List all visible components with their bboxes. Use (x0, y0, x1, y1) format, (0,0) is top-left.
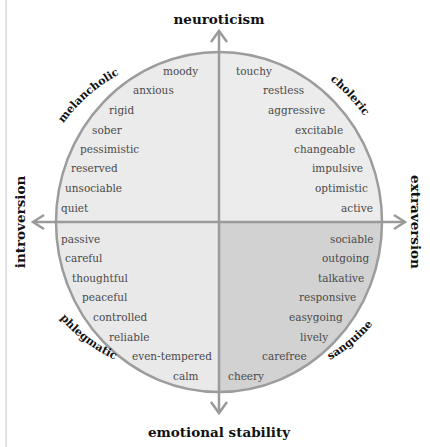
temperament-diagram: neuroticism emotional stability introver… (0, 0, 430, 447)
trait: moody (163, 65, 198, 77)
trait: optimistic (315, 182, 368, 194)
trait: cheery (228, 370, 264, 382)
trait: restless (263, 84, 304, 96)
trait: touchy (236, 65, 272, 77)
trait: reserved (71, 162, 118, 174)
trait: unsociable (65, 182, 122, 194)
axis-label-top: neuroticism (174, 11, 265, 27)
trait: excitable (295, 124, 343, 136)
trait: sober (92, 124, 123, 136)
trait: outgoing (322, 252, 369, 264)
trait: sociable (330, 233, 374, 245)
trait: lively (300, 331, 328, 343)
trait: controlled (93, 311, 147, 323)
trait: pessimistic (80, 143, 139, 155)
trait: impulsive (312, 162, 363, 174)
trait: calm (173, 370, 198, 382)
axis-label-right: extraversion (408, 175, 424, 269)
trait: carefree (262, 350, 307, 362)
trait: easygoing (289, 311, 343, 323)
trait: changeable (294, 143, 355, 155)
axis-label-left: introversion (12, 176, 28, 269)
trait: passive (61, 233, 100, 245)
trait: active (341, 202, 373, 214)
trait: peaceful (82, 291, 128, 303)
trait: thoughtful (72, 272, 128, 284)
trait: aggressive (268, 104, 325, 116)
trait: anxious (133, 84, 174, 96)
trait: careful (65, 252, 103, 264)
trait: talkative (318, 272, 364, 284)
trait: rigid (109, 104, 134, 116)
trait: reliable (109, 331, 150, 343)
trait: responsive (299, 291, 356, 303)
trait: even-tempered (132, 350, 212, 362)
trait: quiet (61, 202, 89, 214)
axis-label-bottom: emotional stability (148, 424, 291, 440)
